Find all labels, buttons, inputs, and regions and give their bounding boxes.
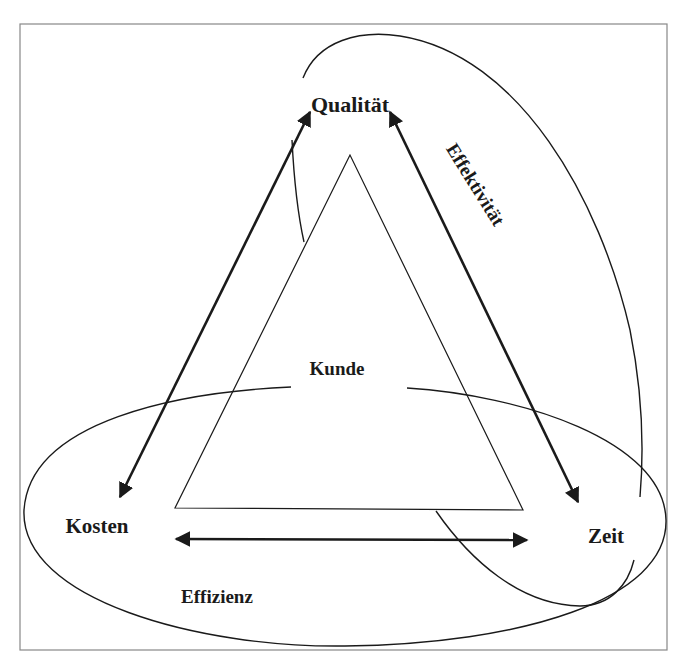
label-efficiency: Effizienz — [181, 586, 253, 607]
label-customer: Kunde — [310, 358, 365, 379]
label-time: Zeit — [588, 524, 624, 548]
customer-triangle — [175, 155, 523, 510]
diagram-frame — [20, 24, 667, 650]
diagram-canvas: Qualität Kunde Kosten Zeit Effizienz Eff… — [0, 0, 690, 672]
effectiveness-curve-inner-top — [292, 140, 304, 242]
label-quality: Qualität — [311, 92, 390, 117]
label-cost: Kosten — [66, 514, 129, 538]
arrow-quality-time — [390, 112, 578, 502]
arrow-quality-cost — [120, 112, 310, 497]
label-effectiveness: Effektivität — [442, 140, 509, 230]
arrow-cost-time — [176, 539, 527, 540]
